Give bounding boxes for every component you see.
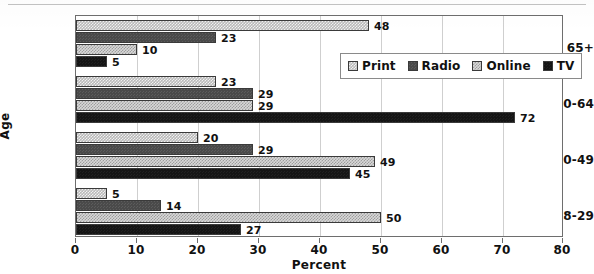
bar-value-print-30-49: 20 <box>203 131 219 144</box>
y-axis-label: Age <box>0 113 12 140</box>
scan-artifact-line <box>8 4 586 5</box>
bar-value-print-65plus: 48 <box>374 19 390 32</box>
legend-item-online[interactable]: Online <box>472 59 530 73</box>
legend-label-tv: TV <box>557 59 575 73</box>
legend-label-online: Online <box>486 59 530 73</box>
bar-value-tv-30-49: 45 <box>355 167 371 180</box>
bar-radio-65plus[interactable] <box>76 32 216 43</box>
legend-item-radio[interactable]: Radio <box>408 59 461 73</box>
bar-tv-30-49[interactable] <box>76 168 350 179</box>
bar-print-30-49[interactable] <box>76 132 198 143</box>
bar-online-65plus[interactable] <box>76 44 137 55</box>
legend-swatch-print-icon <box>348 61 358 71</box>
bar-online-18-29[interactable] <box>76 212 381 223</box>
gridline-70 <box>503 16 504 236</box>
x-tick-label-40: 40 <box>310 243 327 257</box>
x-tick-label-50: 50 <box>371 243 388 257</box>
bar-value-radio-65plus: 23 <box>221 31 237 44</box>
x-tick-label-60: 60 <box>432 243 449 257</box>
chart-legend: Print Radio Online TV <box>340 53 582 79</box>
bar-online-30-49[interactable] <box>76 156 375 167</box>
x-tick-label-20: 20 <box>188 243 205 257</box>
bar-value-online-50-64: 29 <box>258 99 274 112</box>
gridline-20 <box>198 16 199 236</box>
legend-item-print[interactable]: Print <box>348 59 396 73</box>
plot-area: 48 23 10 5 23 29 <box>75 15 563 237</box>
bar-value-radio-30-49: 29 <box>258 143 274 156</box>
bar-value-tv-50-64: 72 <box>520 111 536 124</box>
legend-swatch-online-icon <box>472 61 482 71</box>
bar-print-18-29[interactable] <box>76 188 107 199</box>
bar-value-tv-65plus: 5 <box>112 55 120 68</box>
bar-value-tv-18-29: 27 <box>246 223 262 236</box>
legend-swatch-radio-icon <box>408 61 418 71</box>
x-tick-label-30: 30 <box>249 243 266 257</box>
bar-value-radio-18-29: 14 <box>166 199 182 212</box>
bar-value-online-65plus: 10 <box>142 43 158 56</box>
bar-value-online-18-29: 50 <box>386 211 402 224</box>
bar-value-print-18-29: 5 <box>112 187 120 200</box>
bar-tv-65plus[interactable] <box>76 56 107 67</box>
legend-item-tv[interactable]: TV <box>543 59 575 73</box>
bar-radio-30-49[interactable] <box>76 144 253 155</box>
legend-swatch-tv-icon <box>543 61 553 71</box>
gridline-60 <box>442 16 443 236</box>
gridline-30 <box>259 16 260 236</box>
bar-online-50-64[interactable] <box>76 100 253 111</box>
legend-label-print: Print <box>362 59 396 73</box>
x-tick-label-70: 70 <box>493 243 510 257</box>
bar-radio-18-29[interactable] <box>76 200 161 211</box>
legend-label-radio: Radio <box>422 59 461 73</box>
x-tick-label-0: 0 <box>71 243 80 257</box>
bar-print-50-64[interactable] <box>76 76 216 87</box>
x-tick-label-80: 80 <box>553 243 570 257</box>
x-tick-label-10: 10 <box>127 243 144 257</box>
gridline-40 <box>320 16 321 236</box>
bar-value-print-50-64: 23 <box>221 75 237 88</box>
bar-value-online-30-49: 49 <box>380 155 396 168</box>
bar-tv-50-64[interactable] <box>76 112 515 123</box>
x-axis-label: Percent <box>292 258 346 272</box>
bar-radio-50-64[interactable] <box>76 88 253 99</box>
bar-print-65plus[interactable] <box>76 20 369 31</box>
bar-tv-18-29[interactable] <box>76 224 241 235</box>
gridline-50 <box>381 16 382 236</box>
